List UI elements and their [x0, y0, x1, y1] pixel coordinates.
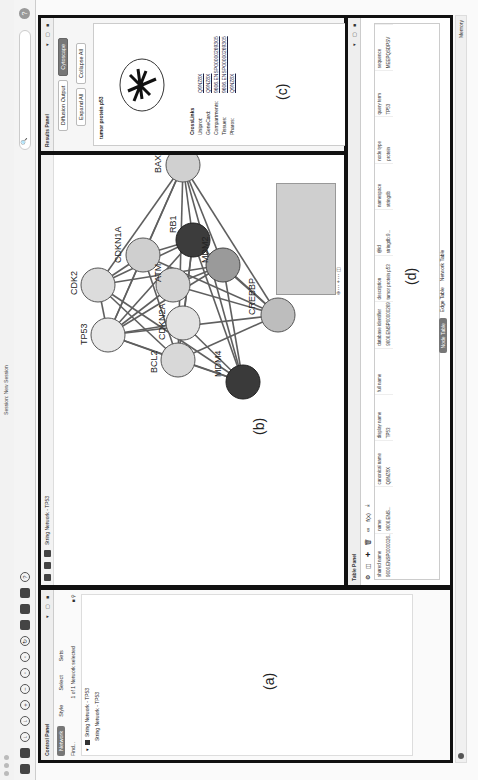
column-header[interactable]: canonical name [375, 440, 384, 486]
svg-text:CREBBP: CREBBP [247, 278, 257, 315]
results-body: tumor protein p53 CrossLinks Uniprot:Q9N… [93, 23, 360, 146]
panel-window-controls[interactable]: ▾ ▢ ■ [348, 22, 360, 46]
refresh-icon[interactable]: ↻ [20, 636, 30, 646]
panel-label-b: (b) [251, 418, 267, 435]
edit-icon[interactable] [44, 550, 51, 557]
cell[interactable]: tumor protein p53 [384, 255, 393, 301]
tab-select[interactable]: Select [57, 670, 65, 695]
cell[interactable]: stringdb:9... [384, 209, 393, 255]
help-icon[interactable]: ? [19, 8, 30, 19]
import-icon[interactable]: ⤓ [364, 504, 371, 507]
function-icon[interactable]: f(x) [365, 513, 371, 522]
tab-diffusion-output[interactable]: Diffusion Output [58, 80, 68, 131]
column-header[interactable]: display name [375, 394, 384, 440]
column-header[interactable]: shared name [375, 533, 384, 579]
table-panel: Table Panel ▾ ▢ ■ ⚙ ◫ ✚ 🗑 ∞ f(x) ⤓ share… [345, 15, 453, 588]
home-icon[interactable] [20, 620, 30, 630]
cell[interactable] [384, 348, 393, 394]
tab-style[interactable]: Style [57, 700, 65, 722]
open-session-icon[interactable] [20, 764, 30, 774]
help-tool-icon[interactable]: ? [20, 572, 30, 582]
network-collection-item[interactable]: ▾ String Network - TP53 [82, 595, 92, 755]
memory-button[interactable]: Memory [458, 20, 464, 38]
network-item[interactable]: String Network - TP53 [92, 595, 102, 755]
cell[interactable]: 9606.ENSP0000026... [384, 533, 393, 579]
tissues-link[interactable]: 9606.ENSP00000269305 [221, 36, 227, 93]
pharos-link[interactable]: Q9NZ8X [229, 74, 235, 93]
panel-window-controls[interactable]: ▾ ▢ ■ [41, 22, 53, 46]
table-row[interactable]: 9606.ENSP0000026... 9606.ENS... Q9NZ8X T… [384, 24, 393, 579]
cell[interactable]: 9606.ENS... [384, 487, 393, 533]
crosslinks-title: CrossLinks [189, 36, 195, 135]
svg-text:MDM2: MDM2 [200, 237, 210, 264]
search-input[interactable]: 🔍 [19, 30, 31, 150]
cell[interactable]: TP53 [384, 70, 393, 116]
column-header[interactable]: sequence [375, 24, 384, 70]
expand-all-button[interactable]: Expand All [76, 88, 86, 126]
tab-sets[interactable]: Sets [57, 645, 65, 666]
minimap-tools[interactable]: ⊕ ⋯ ⌖ ⋯ ◫ [335, 267, 342, 295]
import-table-icon[interactable]: ↓ [20, 716, 30, 726]
network-view-tab[interactable]: String Network - TP53 [44, 496, 50, 545]
cell[interactable]: Q9NZ8X [384, 440, 393, 486]
save-session-icon[interactable] [20, 748, 30, 758]
status-icon[interactable] [458, 753, 464, 759]
panel-window-controls[interactable]: ▾ ▢ ■ [41, 594, 53, 618]
show-icon[interactable] [20, 588, 30, 598]
genecard-link[interactable]: Q9NZ8X [205, 74, 211, 93]
cell[interactable]: 9606.ENSP00000269305 [384, 302, 393, 348]
zoom-selected-icon[interactable]: ◦ [20, 652, 30, 662]
table-panel-title: Table Panel [351, 554, 357, 581]
network-options-icon[interactable]: ■ ⚲ [70, 594, 76, 602]
cytoscape-window: Session: New Session ↓ ↓ + − ◦ ◦ ↻ ? 🔍 ?… [0, 0, 478, 780]
column-header[interactable]: full name [375, 348, 384, 394]
delete-icon[interactable]: 🗑 [364, 538, 371, 546]
column-header[interactable]: query term [375, 70, 384, 116]
cell[interactable]: protein [384, 117, 393, 163]
grid-icon[interactable] [44, 574, 51, 581]
tab-cytoscape[interactable]: Cytoscape [58, 38, 68, 76]
column-header[interactable]: database identifier [375, 302, 384, 348]
import-network-icon[interactable]: ↓ [20, 732, 30, 742]
network-filter-dropdown[interactable]: Find... [70, 742, 76, 756]
crosslink-row: Uniprot:Q9NZ8X [197, 36, 203, 135]
network-view[interactable]: String Network - TP53 [38, 152, 347, 588]
control-panel-header: Control Panel ▾ ▢ ■ [41, 590, 54, 760]
network-checkbox[interactable] [85, 740, 90, 745]
zoom-in-icon[interactable]: + [20, 700, 30, 710]
tab-edge-table[interactable]: Edge Table [439, 287, 447, 312]
gear-icon[interactable]: ⚙ [364, 575, 371, 580]
protein-structure-image [112, 55, 172, 115]
column-header[interactable]: @id [375, 209, 384, 255]
column-header[interactable]: name [375, 487, 384, 533]
uniprot-link[interactable]: Q9NZ8X [197, 74, 203, 93]
table-header: shared name name canonical name display … [375, 24, 384, 579]
network-filter-row: Find... 1 of 1 Network selected ■ ⚲ [68, 590, 78, 760]
column-header[interactable]: namespace [375, 163, 384, 209]
image-icon[interactable] [44, 562, 51, 569]
compartments-link[interactable]: 9606.ENSP00000269305 [213, 36, 219, 93]
add-column-icon[interactable]: ✚ [364, 552, 371, 557]
network-overview-minimap[interactable] [276, 183, 336, 295]
cell[interactable]: TP53 [384, 394, 393, 440]
column-header[interactable]: node type [375, 117, 384, 163]
zoom-out-icon[interactable]: − [20, 684, 30, 694]
cell[interactable]: MEEPQSDPSV [384, 24, 393, 70]
network-count: 1 of 1 Network selected [70, 646, 76, 698]
expand-icon[interactable]: ▾ [84, 748, 90, 751]
link-icon[interactable]: ∞ [365, 528, 371, 532]
control-panel: Control Panel ▾ ▢ ■ Network Style Select… [38, 587, 453, 763]
columns-icon[interactable]: ◫ [364, 563, 371, 569]
panel-label-c: (c) [274, 84, 290, 100]
hide-icon[interactable] [20, 604, 30, 614]
tab-network[interactable]: Network [57, 726, 65, 756]
svg-text:RB1: RB1 [168, 215, 178, 233]
protein-name: tumor protein p53 [98, 96, 104, 139]
tab-network-table[interactable]: Network Table [439, 250, 447, 282]
control-panel-tabs: Network Style Select Sets [54, 590, 68, 760]
zoom-fit-icon[interactable]: ◦ [20, 668, 30, 678]
tab-node-table[interactable]: Node Table [439, 318, 447, 353]
cell[interactable]: stringdb [384, 163, 393, 209]
collapse-all-button[interactable]: Collapse All [76, 43, 86, 84]
column-header[interactable]: description [375, 255, 384, 301]
